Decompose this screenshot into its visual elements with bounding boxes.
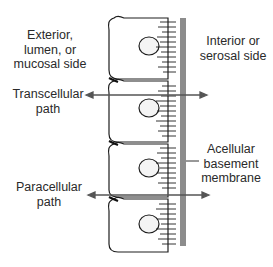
- label-transcellular: Transcellular path: [12, 87, 84, 116]
- transcellular-arrow: [86, 92, 207, 98]
- nucleus: [139, 159, 159, 177]
- label-interior: Interior or serosal side: [198, 34, 268, 63]
- nucleus: [139, 99, 159, 117]
- basal-infoldings: [156, 22, 176, 244]
- nucleus: [139, 37, 159, 55]
- label-basement-membrane: Acellular basement membrane: [200, 142, 262, 186]
- cell-3: [109, 143, 168, 198]
- cell-1: [109, 17, 168, 80]
- label-exterior: Exterior, lumen, or mucosal side: [12, 28, 88, 72]
- cell-4: [109, 198, 168, 253]
- nucleus: [139, 215, 159, 233]
- label-paracellular: Paracellular path: [14, 180, 84, 209]
- basement-membrane: [180, 18, 186, 246]
